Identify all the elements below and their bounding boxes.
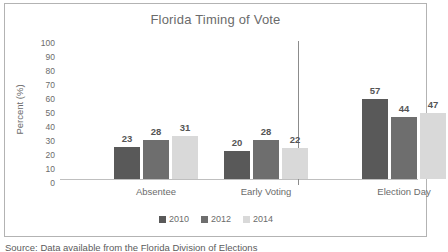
bar-value-label: 57 — [370, 85, 381, 96]
bar-group-absentee: 232831Absentee — [112, 39, 200, 179]
x-axis-category-label: Election Day — [360, 186, 448, 197]
bar-rect[interactable] — [282, 148, 308, 179]
bar-election-day-2012[interactable]: 44 — [391, 39, 417, 179]
legend-label: 2014 — [253, 214, 273, 224]
y-axis-tick-90: 90 — [46, 53, 55, 62]
bar-election-day-2014[interactable]: 47 — [420, 39, 446, 179]
legend-swatch-icon — [159, 216, 166, 223]
y-axis-tick-labels: 1009080706050403020100 — [22, 33, 55, 185]
legend-item-2012[interactable]: 2012 — [201, 214, 231, 224]
bar-value-label: 47 — [428, 99, 439, 110]
bar-value-label: 28 — [261, 126, 272, 137]
x-axis-category-label: Early Voting — [222, 186, 310, 197]
bar-value-label: 44 — [399, 103, 410, 114]
legend-swatch-icon — [243, 216, 250, 223]
bar-early-voting-2014[interactable]: 22 — [282, 39, 308, 179]
source-note: Source: Data available from the Florida … — [5, 242, 257, 252]
bars-container: 202822 — [222, 39, 310, 179]
bar-value-label: 22 — [290, 134, 301, 145]
bar-value-label: 28 — [151, 126, 162, 137]
chart-title: Florida Timing of Vote — [5, 12, 426, 27]
plot-area: 232831Absentee202822Early Voting574447El… — [60, 39, 418, 179]
bars-container: 574447 — [360, 39, 448, 179]
y-axis-tick-100: 100 — [41, 39, 55, 48]
x-axis-category-label: Absentee — [112, 186, 200, 197]
y-axis-tick-20: 20 — [46, 151, 55, 160]
bar-rect[interactable] — [143, 140, 169, 179]
x-axis-baseline — [60, 179, 418, 180]
y-axis-tick-0: 0 — [50, 179, 55, 188]
legend-label: 2012 — [211, 214, 231, 224]
y-axis-tick-60: 60 — [46, 95, 55, 104]
bar-rect[interactable] — [362, 99, 388, 179]
bar-absentee-2014[interactable]: 31 — [172, 39, 198, 179]
bar-value-label: 31 — [180, 122, 191, 133]
bar-group-election-day: 574447Election Day — [360, 39, 448, 179]
legend-item-2010[interactable]: 2010 — [159, 214, 189, 224]
bar-election-day-2010[interactable]: 57 — [362, 39, 388, 179]
bar-rect[interactable] — [114, 147, 140, 179]
y-axis-tick-30: 30 — [46, 137, 55, 146]
bar-rect[interactable] — [172, 136, 198, 179]
bar-absentee-2012[interactable]: 28 — [143, 39, 169, 179]
bars-container: 232831 — [112, 39, 200, 179]
bar-rect[interactable] — [391, 117, 417, 179]
bar-value-label: 23 — [122, 133, 133, 144]
bar-value-label: 20 — [232, 137, 243, 148]
bar-rect[interactable] — [253, 140, 279, 179]
bar-rect[interactable] — [420, 113, 446, 179]
y-axis-tick-80: 80 — [46, 67, 55, 76]
bar-early-voting-2010[interactable]: 20 — [224, 39, 250, 179]
bar-absentee-2010[interactable]: 23 — [114, 39, 140, 179]
chart-legend: 201020122014 — [0, 214, 432, 224]
legend-swatch-icon — [201, 216, 208, 223]
y-axis-tick-50: 50 — [46, 109, 55, 118]
legend-item-2014[interactable]: 2014 — [243, 214, 273, 224]
y-axis-tick-40: 40 — [46, 123, 55, 132]
bar-early-voting-2012[interactable]: 28 — [253, 39, 279, 179]
legend-label: 2010 — [169, 214, 189, 224]
bar-group-early-voting: 202822Early Voting — [222, 39, 310, 179]
y-axis-tick-70: 70 — [46, 81, 55, 90]
bar-rect[interactable] — [224, 151, 250, 179]
y-axis-tick-10: 10 — [46, 165, 55, 174]
